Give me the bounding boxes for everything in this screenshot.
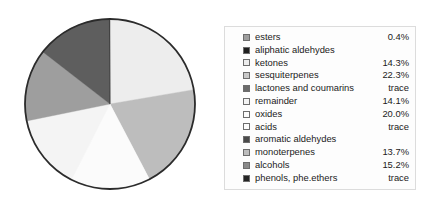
- pie-slice: [110, 19, 194, 104]
- legend-label: lactones and coumarins: [255, 82, 384, 95]
- legend-swatch-icon: [243, 149, 250, 156]
- legend-rows: esters0.4%aliphatic aldehydesketones14.3…: [243, 31, 409, 185]
- legend-row: phenols, phe.etherstrace: [243, 172, 409, 185]
- legend-label: sesquiterpenes: [255, 69, 378, 82]
- legend-row: esters0.4%: [243, 31, 409, 44]
- legend-label: aromatic aldehydes: [255, 133, 405, 146]
- legend-value: trace: [384, 172, 409, 185]
- legend-label: oxides: [255, 108, 378, 121]
- legend-row: lactones and coumarinstrace: [243, 82, 409, 95]
- legend-label: phenols, phe.ethers: [255, 172, 384, 185]
- pie-chart-svg: [23, 17, 197, 191]
- legend-row: oxides20.0%: [243, 108, 409, 121]
- legend-swatch-icon: [243, 136, 250, 143]
- legend-swatch-icon: [243, 98, 250, 105]
- legend-label: monoterpenes: [255, 146, 378, 159]
- legend-row: aliphatic aldehydes: [243, 44, 409, 57]
- legend-row: aromatic aldehydes: [243, 133, 409, 146]
- pie-chart-figure: esters0.4%aliphatic aldehydesketones14.3…: [0, 0, 426, 211]
- legend-row: sesquiterpenes22.3%: [243, 69, 409, 82]
- legend-value: 13.7%: [378, 146, 409, 159]
- legend-row: alcohols15.2%: [243, 159, 409, 172]
- legend-label: alcohols: [255, 159, 378, 172]
- legend-swatch-icon: [243, 175, 250, 182]
- legend-swatch-icon: [243, 123, 250, 130]
- legend-label: remainder: [255, 95, 378, 108]
- pie-chart: [23, 17, 197, 191]
- legend-value: 14.1%: [378, 95, 409, 108]
- legend-value: 0.4%: [384, 31, 409, 44]
- legend-swatch-icon: [243, 85, 250, 92]
- legend-swatch-icon: [243, 162, 250, 169]
- legend-label: esters: [255, 31, 384, 44]
- legend-value: trace: [384, 82, 409, 95]
- legend-row: monoterpenes13.7%: [243, 146, 409, 159]
- legend-label: ketones: [255, 57, 378, 70]
- legend-box: esters0.4%aliphatic aldehydesketones14.3…: [224, 26, 416, 190]
- legend-row: acidstrace: [243, 121, 409, 134]
- legend-value: 22.3%: [378, 69, 409, 82]
- legend-row: remainder14.1%: [243, 95, 409, 108]
- legend-value: 20.0%: [378, 108, 409, 121]
- legend-swatch-icon: [243, 111, 250, 118]
- legend-swatch-icon: [243, 34, 250, 41]
- legend-swatch-icon: [243, 59, 250, 66]
- legend-label: acids: [255, 121, 384, 134]
- legend-value: 14.3%: [378, 57, 409, 70]
- legend-label: aliphatic aldehydes: [255, 44, 405, 57]
- legend-swatch-icon: [243, 47, 250, 54]
- legend-value: 15.2%: [378, 159, 409, 172]
- legend-value: trace: [384, 121, 409, 134]
- legend-swatch-icon: [243, 72, 250, 79]
- legend-row: ketones14.3%: [243, 57, 409, 70]
